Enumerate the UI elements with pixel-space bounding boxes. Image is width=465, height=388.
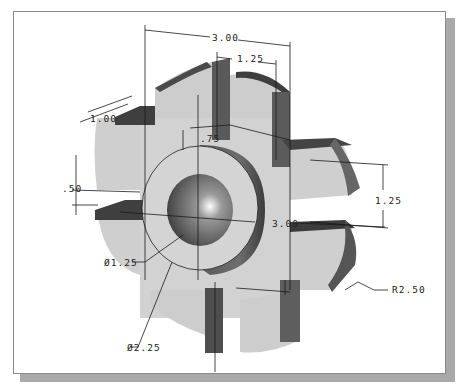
dim-boss-offset: .75 xyxy=(200,133,220,144)
dim-top-slot-offset: 1.25 xyxy=(237,53,264,64)
dim-boss-diameter: Ø2.25 xyxy=(127,342,161,353)
dim-outer-radius: R2.50 xyxy=(392,284,426,295)
dim-slot-depth: 1.00 xyxy=(90,113,117,124)
dim-hole-diameter: Ø1.25 xyxy=(104,257,138,268)
dim-overall-width: 3.00 xyxy=(212,32,239,43)
dim-right-height: 1.25 xyxy=(375,195,402,206)
dim-inner-width: 3.00 xyxy=(272,218,299,229)
part-drawing: 3.00 1.25 1.00 .75 .50 3.00 1.25 Ø1.25 Ø… xyxy=(0,0,465,388)
dim-slot-width: .50 xyxy=(62,183,82,194)
